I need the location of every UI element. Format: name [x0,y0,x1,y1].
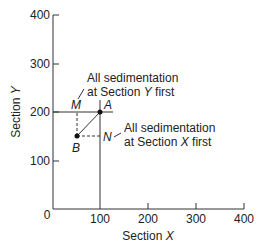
point-m-label: M [71,98,81,112]
x-tick-200: 200 [138,212,158,226]
line-b-to-a [77,112,100,136]
annotation-x-first-pointer [114,133,121,137]
x-tick-100: 100 [90,212,110,226]
annotation-y-first-pointer [78,89,84,99]
x-tick-300: 300 [186,212,206,226]
y-tick-200: 200 [30,105,50,119]
y-tick-100: 100 [30,154,50,168]
y-tick-300: 300 [30,57,50,71]
point-b-marker [75,134,80,139]
annotation-y-first-line1: All sedimentation [87,71,178,85]
y-axis-title: Section Y [9,85,23,137]
x-tick-0: 0 [44,208,51,222]
x-axis-title: Section X [122,229,174,243]
point-b-label: B [72,141,80,155]
sedimentation-diagram: 400 300 200 100 0 100 200 300 400 Sectio… [0,0,268,248]
y-tick-400: 400 [30,8,50,22]
point-a-label: A [103,98,112,112]
x-axis [53,203,244,209]
annotation-x-first-line2: at Section X first [124,135,212,149]
annotation-x-first-line1: All sedimentation [124,121,215,135]
annotation-y-first-line2: at Section Y first [87,85,175,99]
point-n-label: N [103,130,112,144]
x-tick-400: 400 [234,212,254,226]
point-a-marker [98,110,103,115]
